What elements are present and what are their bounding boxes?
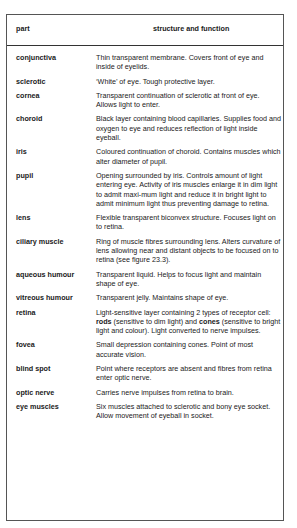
table-row: lensFlexible transparent biconvex struct…	[7, 213, 283, 232]
part-name: pupil	[16, 171, 96, 208]
part-description: Opening surrounded by iris. Controls amo…	[96, 171, 281, 208]
table-row: blind spotPoint where receptors are abse…	[7, 364, 283, 383]
table-row: conjunctivaThin transparent membrane. Co…	[7, 53, 283, 72]
table-row: ciliary muscleRing of muscle fibres surr…	[7, 237, 283, 265]
part-name: iris	[16, 147, 96, 166]
part-description: Coloured continuation of choroid. Contai…	[96, 147, 281, 166]
part-description: ‘White’ of eye. Tough protective layer.	[96, 77, 281, 86]
part-description: Black layer containing blood capillaries…	[96, 114, 281, 142]
part-name: conjunctiva	[16, 53, 96, 72]
table-row: choroidBlack layer containing blood capi…	[7, 114, 283, 142]
part-name: sclerotic	[16, 77, 96, 86]
table-row: sclerotic‘White’ of eye. Tough protectiv…	[7, 77, 283, 86]
part-description: Six muscles attached to sclerotic and bo…	[96, 402, 281, 421]
table-row: retinaLight-sensitive layer containing 2…	[7, 308, 283, 336]
table-row: vitreous humourTransparent jelly. Mainta…	[7, 293, 283, 302]
header-part: part	[16, 24, 30, 33]
part-name: cornea	[16, 91, 96, 110]
part-name: optic nerve	[16, 388, 96, 397]
part-name: fovea	[16, 340, 96, 359]
desc-text: (sensitive to dim light) and	[112, 317, 200, 326]
part-name: retina	[16, 308, 96, 336]
table-row: pupilOpening surrounded by iris. Control…	[7, 171, 283, 208]
part-name: vitreous humour	[16, 293, 96, 302]
table-row: corneaTransparent continuation of sclero…	[7, 91, 283, 110]
part-name: lens	[16, 213, 96, 232]
part-description: Transparent jelly. Maintains shape of ey…	[96, 293, 281, 302]
term-cones: cones	[199, 317, 220, 326]
eye-parts-table: part structure and function conjunctivaT…	[6, 14, 284, 521]
table-body: conjunctivaThin transparent membrane. Co…	[7, 46, 283, 421]
part-description: Thin transparent membrane. Covers front …	[96, 53, 281, 72]
part-name: blind spot	[16, 364, 96, 383]
part-name: ciliary muscle	[16, 237, 96, 265]
table-header: part structure and function	[7, 15, 283, 46]
header-structure-function: structure and function	[153, 24, 229, 33]
part-name: aqueous humour	[16, 270, 96, 289]
part-description: Point where receptors are absent and fib…	[96, 364, 281, 383]
part-description: Transparent continuation of sclerotic at…	[96, 91, 281, 110]
part-description: Small depression containing cones. Point…	[96, 340, 281, 359]
term-rods: rods	[96, 317, 112, 326]
part-name: eye muscles	[16, 402, 96, 421]
part-description: Light-sensitive layer containing 2 types…	[96, 308, 281, 336]
table-row: optic nerveCarries nerve impulses from r…	[7, 388, 283, 397]
desc-text: Light-sensitive layer containing 2 types…	[96, 308, 271, 317]
part-name: choroid	[16, 114, 96, 142]
table-row: irisColoured continuation of choroid. Co…	[7, 147, 283, 166]
table-row: aqueous humourTransparent liquid. Helps …	[7, 270, 283, 289]
table-row: foveaSmall depression containing cones. …	[7, 340, 283, 359]
part-description: Transparent liquid. Helps to focus light…	[96, 270, 281, 289]
part-description: Flexible transparent biconvex structure.…	[96, 213, 281, 232]
part-description: Carries nerve impulses from retina to br…	[96, 388, 281, 397]
part-description: Ring of muscle fibres surrounding lens. …	[96, 237, 281, 265]
table-row: eye musclesSix muscles attached to scler…	[7, 402, 283, 421]
